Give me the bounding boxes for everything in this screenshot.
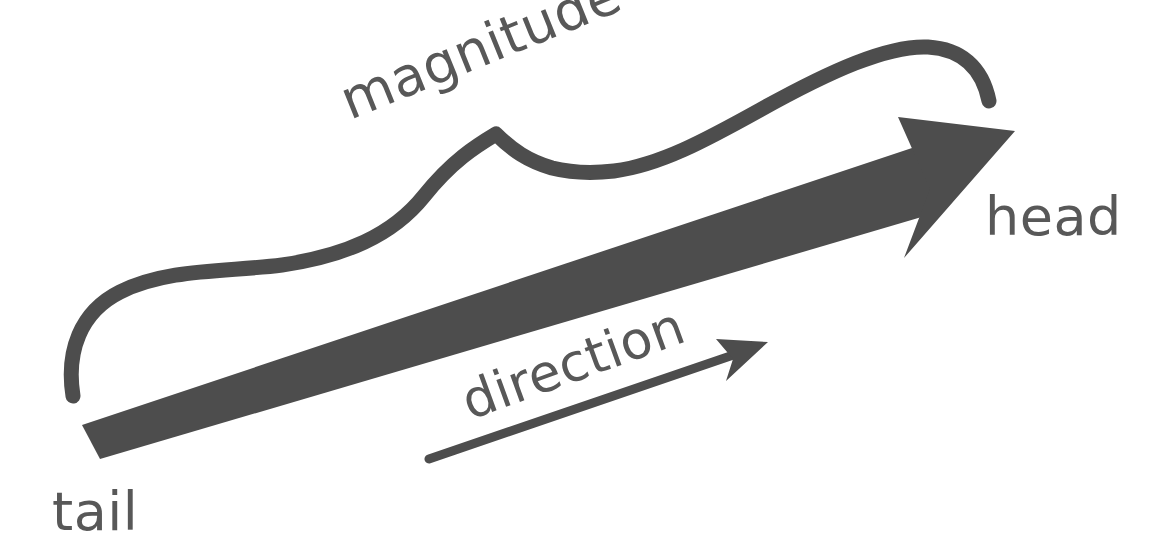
label-tail: tail [52, 480, 138, 543]
vector-diagram-canvas: magnitude head direction tail [0, 0, 1149, 560]
vector-diagram-svg: magnitude head direction tail [0, 0, 1149, 560]
label-head: head [985, 185, 1122, 248]
